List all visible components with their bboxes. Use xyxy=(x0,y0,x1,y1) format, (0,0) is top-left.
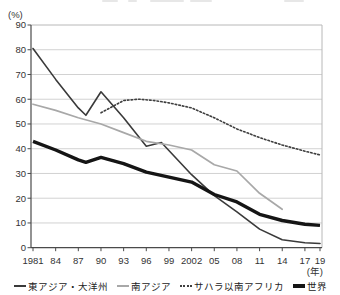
legend-marker-thin-dark xyxy=(14,285,26,287)
legend-label-0: 東アジア・大洋州 xyxy=(28,279,108,293)
chart-legend: 東アジア・大洋州南アジアサハラ以南アフリカ世界 xyxy=(0,278,340,294)
legend-marker-thin-gray xyxy=(117,285,129,287)
x-tick-label: 11 xyxy=(255,255,265,266)
x-axis-unit-label: (年) xyxy=(307,266,323,277)
y-tick-label: 30 xyxy=(15,168,26,179)
x-tick-label: 96 xyxy=(141,255,152,266)
x-tick-label: 93 xyxy=(118,255,129,266)
legend-label-1: 南アジア xyxy=(131,279,171,293)
y-tick-label: 50 xyxy=(15,118,26,129)
y-tick-label: 70 xyxy=(15,69,26,80)
cropped-text-artifact xyxy=(0,0,340,4)
data-series xyxy=(33,49,320,244)
y-tick-label: 90 xyxy=(15,19,26,30)
y-tick-label: 80 xyxy=(15,44,26,55)
x-tick-label: 17 xyxy=(300,255,311,266)
x-tick-label: 1981 xyxy=(22,255,43,266)
x-tick-label: 90 xyxy=(96,255,107,266)
axes xyxy=(28,25,323,251)
x-tick-label: 14 xyxy=(277,255,288,266)
legend-marker-dotted xyxy=(180,285,192,287)
chart-panel: (%) 908070605040302010019818487909396992… xyxy=(0,0,340,295)
series-line-2 xyxy=(101,99,320,155)
y-tick-label: 10 xyxy=(15,217,26,228)
legend-label-3: 世界 xyxy=(307,279,327,293)
x-tick-label: 84 xyxy=(50,255,61,266)
y-tick-label: 0 xyxy=(21,242,26,253)
legend-item-3: 世界 xyxy=(293,279,327,293)
gridlines xyxy=(31,50,322,223)
y-tick-label: 40 xyxy=(15,143,26,154)
tick-labels: 9080706050403020100198184879093969920020… xyxy=(15,19,325,265)
x-tick-label: 2002 xyxy=(181,255,202,266)
legend-item-1: 南アジア xyxy=(117,279,171,293)
series-line-3 xyxy=(33,141,320,225)
legend-marker-thick xyxy=(293,284,305,288)
x-tick-label: 08 xyxy=(232,255,243,266)
x-tick-label: 05 xyxy=(209,255,220,266)
legend-item-2: サハラ以南アフリカ xyxy=(180,279,284,293)
line-chart: (%) 908070605040302010019818487909396992… xyxy=(0,0,340,278)
legend-label-2: サハラ以南アフリカ xyxy=(194,279,284,293)
y-tick-label: 20 xyxy=(15,193,26,204)
x-tick-label: 87 xyxy=(73,255,84,266)
y-tick-label: 60 xyxy=(15,94,26,105)
x-tick-label: 99 xyxy=(164,255,175,266)
x-tick-label: 19 xyxy=(315,255,326,266)
legend-item-0: 東アジア・大洋州 xyxy=(14,279,108,293)
